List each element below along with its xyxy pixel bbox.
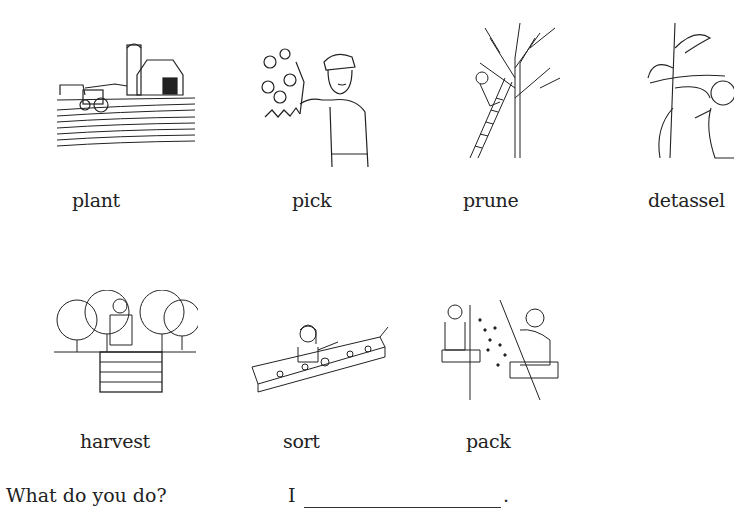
workers-packing-fruit-illustration bbox=[440, 300, 560, 400]
word-sort: sort bbox=[283, 430, 320, 452]
word-harvest: harvest bbox=[80, 430, 150, 452]
word-plant: plant bbox=[72, 189, 120, 211]
word-pick: pick bbox=[292, 189, 331, 211]
man-picking-fruit-illustration bbox=[260, 42, 370, 167]
word-prune: prune bbox=[463, 189, 518, 211]
man-harvesting-orchard-bin-illustration bbox=[52, 290, 198, 395]
person-pruning-tree-on-ladder-illustration bbox=[460, 18, 570, 160]
woman-sorting-conveyor-illustration bbox=[250, 322, 390, 397]
person-detasseling-corn-illustration bbox=[645, 18, 734, 163]
answer-prefix: I bbox=[288, 484, 296, 506]
answer-suffix: . bbox=[503, 484, 509, 506]
answer-blank[interactable] bbox=[304, 489, 501, 508]
question-text: What do you do? bbox=[6, 484, 167, 506]
farm-field-tractor-illustration bbox=[55, 40, 200, 150]
word-detassel: detassel bbox=[648, 189, 725, 211]
word-pack: pack bbox=[466, 430, 510, 452]
